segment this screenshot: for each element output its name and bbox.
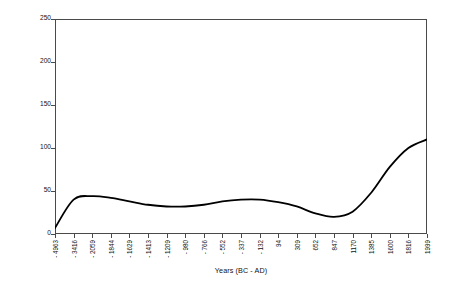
- x-tick-mark: [371, 234, 372, 238]
- pollen-curve: [55, 139, 427, 228]
- pollen-chart-figure: Arboreal/NonArboreal Pollen % 0501001502…: [0, 0, 450, 287]
- x-tick-mark: [167, 234, 168, 238]
- y-tick-label: 0: [30, 229, 51, 236]
- y-tick-label: 250: [30, 14, 51, 21]
- x-tick-label: 1170: [349, 240, 356, 254]
- x-tick-label: - 337: [238, 240, 245, 254]
- x-tick-mark: [129, 234, 130, 238]
- y-tick-label: 200: [30, 57, 51, 64]
- y-tick-100: 100: [30, 143, 51, 153]
- x-tick-label: - 1413: [145, 240, 152, 258]
- x-axis-title: Years (BC - AD): [55, 266, 427, 275]
- x-tick-mark: [315, 234, 316, 238]
- x-tick-label: - 1209: [163, 240, 170, 258]
- y-tick-label: 150: [30, 100, 51, 107]
- x-tick-mark: [408, 234, 409, 238]
- x-tick-mark: [390, 234, 391, 238]
- x-tick-mark: [427, 234, 428, 238]
- x-tick-mark: [222, 234, 223, 238]
- y-tick-50: 50: [30, 186, 51, 196]
- y-tick-label: 50: [30, 186, 51, 193]
- x-tick-label: 1999: [424, 240, 431, 254]
- x-tick-label: 1385: [368, 240, 375, 254]
- x-tick-mark: [185, 234, 186, 238]
- x-tick-mark: [204, 234, 205, 238]
- y-tick-150: 150: [30, 100, 51, 110]
- x-tick-label: 1600: [386, 240, 393, 254]
- x-tick-label: - 980: [182, 240, 189, 254]
- x-tick-label: 1816: [405, 240, 412, 254]
- x-tick-label: - 1629: [126, 240, 133, 258]
- x-tick-mark: [353, 234, 354, 238]
- x-tick-label: 847: [331, 240, 338, 251]
- x-tick-mark: [55, 234, 56, 238]
- y-tick-250: 250: [30, 14, 51, 24]
- x-tick-label: 652: [312, 240, 319, 251]
- data-line-layer: [55, 19, 427, 234]
- x-tick-mark: [74, 234, 75, 238]
- y-tick-label: 100: [30, 143, 51, 150]
- x-tick-label: - 1844: [107, 240, 114, 258]
- x-tick-mark: [92, 234, 93, 238]
- x-tick-label: - 4963: [52, 240, 59, 258]
- x-tick-label: - 2059: [89, 240, 96, 258]
- x-tick-mark: [334, 234, 335, 238]
- y-tick-0: 0: [30, 229, 51, 239]
- x-tick-label: 309: [293, 240, 300, 251]
- x-tick-mark: [278, 234, 279, 238]
- x-tick-mark: [260, 234, 261, 238]
- y-tick-200: 200: [30, 57, 51, 67]
- x-tick-label: - 3416: [70, 240, 77, 258]
- x-tick-label: - 552: [219, 240, 226, 254]
- x-tick-mark: [241, 234, 242, 238]
- x-tick-mark: [297, 234, 298, 238]
- x-tick-mark: [148, 234, 149, 238]
- x-tick-label: 94: [275, 240, 282, 247]
- x-tick-mark: [111, 234, 112, 238]
- x-tick-label: - 132: [256, 240, 263, 254]
- x-tick-label: - 766: [200, 240, 207, 254]
